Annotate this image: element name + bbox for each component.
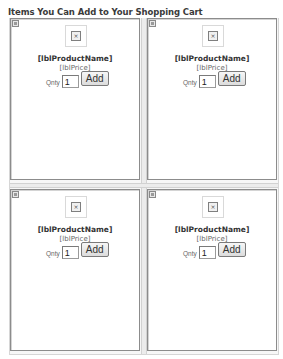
add-to-cart-button[interactable]: Add (81, 71, 109, 86)
product-card: × [lblProductName] [lblPrice] Qnty Add (147, 18, 277, 180)
panel-handle-icon[interactable] (149, 191, 156, 198)
quantity-label: Qnty (183, 79, 197, 86)
product-image: × (202, 196, 224, 218)
quantity-row: Qnty Add (46, 71, 109, 88)
quantity-input[interactable] (62, 75, 79, 88)
product-image: × (65, 196, 87, 218)
quantity-row: Qnty Add (183, 71, 246, 88)
quantity-input[interactable] (62, 246, 79, 259)
broken-image-icon: × (71, 31, 81, 41)
quantity-row: Qnty Add (46, 242, 109, 259)
add-to-cart-button[interactable]: Add (218, 242, 246, 257)
product-name: [lblProductName] (15, 225, 135, 234)
add-to-cart-button[interactable]: Add (218, 71, 246, 86)
quantity-label: Qnty (46, 250, 60, 257)
product-grid: × [lblProductName] [lblPrice] Qnty Add ×… (9, 18, 279, 355)
page-title: Items You Can Add to Your Shopping Cart (8, 7, 203, 17)
product-image: × (202, 25, 224, 47)
quantity-input[interactable] (199, 246, 216, 259)
quantity-label: Qnty (46, 79, 60, 86)
product-name: [lblProductName] (152, 225, 272, 234)
broken-image-icon: × (208, 202, 218, 212)
product-image: × (65, 25, 87, 47)
grid-divider-horizontal (10, 183, 278, 188)
add-to-cart-button[interactable]: Add (81, 242, 109, 257)
quantity-row: Qnty Add (183, 242, 246, 259)
product-name: [lblProductName] (15, 54, 135, 63)
panel-handle-icon[interactable] (12, 20, 19, 27)
product-card: × [lblProductName] [lblPrice] Qnty Add (147, 189, 277, 351)
quantity-label: Qnty (183, 250, 197, 257)
panel-handle-icon[interactable] (149, 20, 156, 27)
product-card: × [lblProductName] [lblPrice] Qnty Add (10, 18, 140, 180)
product-name: [lblProductName] (152, 54, 272, 63)
broken-image-icon: × (208, 31, 218, 41)
product-card: × [lblProductName] [lblPrice] Qnty Add (10, 189, 140, 351)
quantity-input[interactable] (199, 75, 216, 88)
panel-handle-icon[interactable] (12, 191, 19, 198)
broken-image-icon: × (71, 202, 81, 212)
